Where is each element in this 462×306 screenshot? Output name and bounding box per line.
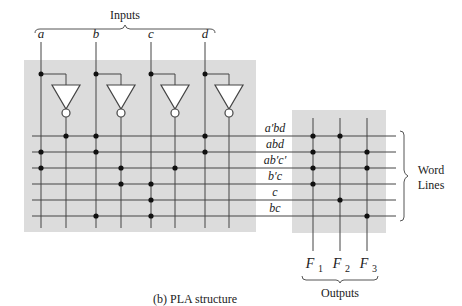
product-term-label: a′bd (265, 121, 287, 135)
and-connection-dot (93, 213, 98, 218)
and-connection-dot (93, 133, 98, 138)
and-connection-dot (38, 149, 43, 154)
and-connection-dot (148, 197, 153, 202)
or-plane (292, 110, 386, 233)
or-connection-dot (310, 133, 315, 138)
and-connection-dot (118, 165, 123, 170)
outputs-brace (302, 276, 378, 283)
output-label-1: F (305, 256, 315, 271)
or-connection-dot (337, 197, 342, 202)
and-connection-dot (148, 181, 153, 186)
input-label-a: a (38, 26, 45, 41)
output-subscript: 1 (318, 263, 323, 274)
and-connection-dot (202, 149, 207, 154)
caption: (b) PLA structure (153, 292, 237, 306)
product-term-label: bc (269, 201, 281, 215)
inputs-title: Inputs (110, 8, 140, 22)
or-connection-dot (364, 149, 369, 154)
input-label-d: d (202, 26, 209, 41)
or-connection-dot (310, 165, 315, 170)
output-subscript: 2 (345, 263, 350, 274)
product-term-label: c (272, 185, 278, 199)
junction-dot (203, 72, 208, 77)
junction-dot (149, 72, 154, 77)
output-label-2: F (332, 256, 342, 271)
or-connection-dot (337, 133, 342, 138)
inverter-bubble (62, 109, 70, 117)
input-label-b: b (93, 26, 100, 41)
and-connection-dot (93, 149, 98, 154)
inputs-brace (35, 25, 215, 33)
product-term-label: ab′c′ (264, 153, 287, 167)
outputs-label: Outputs (321, 286, 359, 300)
inverter-bubble (171, 109, 179, 117)
and-connection-dot (202, 133, 207, 138)
word-lines-brace (400, 131, 408, 221)
pla-diagram: abcdF1F2F3a′bdabdab′c′b′ccbcInputsWordLi… (0, 0, 462, 306)
or-connection-dot (364, 213, 369, 218)
output-label-3: F (359, 256, 369, 271)
and-connection-dot (63, 133, 68, 138)
and-connection-dot (38, 165, 43, 170)
product-term-label: abd (266, 137, 285, 151)
inverter-bubble (117, 109, 125, 117)
or-connection-dot (310, 181, 315, 186)
word-lines-label: Word (418, 163, 444, 177)
product-term-label: b′c (268, 169, 283, 183)
or-connection-dot (310, 149, 315, 154)
word-lines-label: Lines (418, 178, 445, 192)
and-connection-dot (172, 165, 177, 170)
junction-dot (39, 72, 44, 77)
and-connection-dot (148, 213, 153, 218)
input-label-c: c (148, 26, 154, 41)
output-subscript: 3 (372, 263, 377, 274)
junction-dot (94, 72, 99, 77)
inverter-bubble (225, 109, 233, 117)
and-connection-dot (118, 181, 123, 186)
or-connection-dot (364, 165, 369, 170)
